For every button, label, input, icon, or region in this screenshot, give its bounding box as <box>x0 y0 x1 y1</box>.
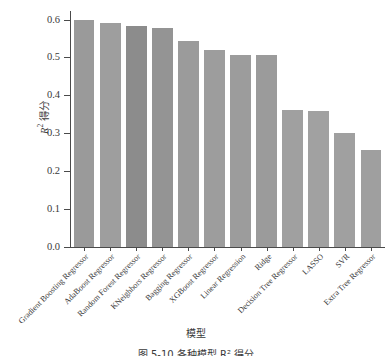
bar[interactable] <box>152 28 173 247</box>
x-tick-mark <box>241 248 242 251</box>
x-tick-mark <box>293 248 294 251</box>
x-axis-title: 模型 <box>0 325 392 340</box>
bar[interactable] <box>334 133 355 247</box>
figure-caption: 图 5-10 各种模型 R² 得分 <box>0 346 392 356</box>
y-tick-mark <box>64 20 70 21</box>
bar[interactable] <box>178 41 199 247</box>
bar[interactable] <box>256 55 277 247</box>
y-axis-title-exponent: 2 <box>36 124 45 128</box>
bar[interactable] <box>204 50 225 247</box>
figure-container: R2 得分 0.00.10.20.30.40.50.6 Gradient Boo… <box>0 0 392 356</box>
bar[interactable] <box>100 23 121 247</box>
y-tick-mark <box>64 171 70 172</box>
x-tick-mark <box>188 248 189 251</box>
x-tick-mark <box>110 248 111 251</box>
bar[interactable] <box>126 26 147 247</box>
y-tick-mark <box>64 95 70 96</box>
x-tick-mark <box>136 248 137 251</box>
y-tick-label: 0.4 <box>0 90 60 100</box>
x-tick-mark <box>162 248 163 251</box>
x-tick-mark <box>214 248 215 251</box>
y-tick-label: 0.0 <box>0 242 60 252</box>
bar[interactable] <box>74 20 95 247</box>
y-tick-label: 0.5 <box>0 52 60 62</box>
bar[interactable] <box>308 111 329 247</box>
bar[interactable] <box>230 55 251 247</box>
plot-area <box>71 12 384 247</box>
y-tick-mark <box>64 247 70 248</box>
x-tick-mark <box>345 248 346 251</box>
bar[interactable] <box>361 150 382 247</box>
x-tick-mark <box>267 248 268 251</box>
y-tick-label: 0.3 <box>0 128 60 138</box>
y-tick-mark <box>64 133 70 134</box>
y-tick-mark <box>64 209 70 210</box>
x-axis-spine <box>70 247 385 248</box>
y-tick-mark <box>64 57 70 58</box>
y-axis-title: R2 得分 <box>36 68 51 168</box>
x-tick-mark <box>319 248 320 251</box>
y-axis-title-text: 得分 <box>39 101 50 124</box>
y-tick-label: 0.2 <box>0 166 60 176</box>
bar[interactable] <box>282 110 303 247</box>
x-tick-mark <box>84 248 85 251</box>
x-tick-mark <box>371 248 372 251</box>
y-tick-label: 0.1 <box>0 204 60 214</box>
y-tick-label: 0.6 <box>0 15 60 25</box>
